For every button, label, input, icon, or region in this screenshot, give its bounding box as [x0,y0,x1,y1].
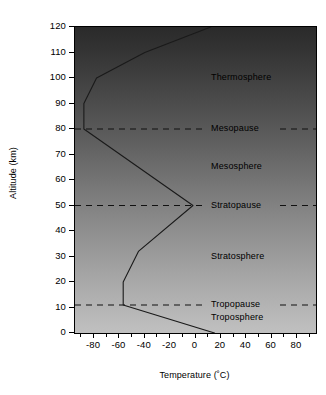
layer-label-troposphere: Troposphere [211,312,263,322]
profile-curve-layer [75,27,316,333]
layer-label-stratopause: Stratopause [211,200,261,210]
x-axis-tick-label: 80 [276,340,316,350]
temperature-profile-polyline [84,27,215,333]
y-axis-tick-label: 0 [26,327,66,337]
layer-label-mesopause: Mesopause [211,123,259,133]
y-axis-tick-label: 20 [26,276,66,286]
layer-label-thermosphere: Thermosphere [211,72,271,82]
layer-label-stratosphere: Stratosphere [211,251,264,261]
y-axis-tick-label: 50 [26,200,66,210]
layer-label-tropopause: Tropopause [211,299,260,309]
y-axis-tick-label: 10 [26,302,66,312]
temperature-profile-curve [84,27,215,333]
y-axis-tick-label: 80 [26,123,66,133]
y-axis-tick-label: 90 [26,98,66,108]
y-axis-tick-label: 120 [26,21,66,31]
atmosphere-temperature-profile-figure: Altitude (km) Temperature (˚C) 010203040… [0,0,326,395]
y-axis-tick-label: 100 [26,72,66,82]
x-axis-title: Temperature (˚C) [74,370,315,380]
y-axis-tick-label: 60 [26,174,66,184]
boundary-dashed-lines [75,129,316,305]
y-axis-tick-label: 110 [26,47,66,57]
layer-label-mesosphere: Mesosphere [211,161,262,171]
y-axis-tick-label: 70 [26,149,66,159]
y-axis-tick-label: 40 [26,225,66,235]
y-axis-tick-label: 30 [26,251,66,261]
plot-area: ThermosphereMesopauseMesosphereStratopau… [74,26,317,334]
y-axis-title: Altitude (km) [8,113,18,233]
